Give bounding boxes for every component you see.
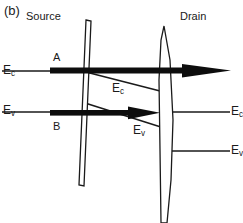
- electron-tunneling-arrow-head: [182, 64, 231, 78]
- drain-conduction-band-subscript: c: [239, 110, 243, 119]
- point-a-label: A: [53, 52, 60, 63]
- drain-conduction-band-label: Ec: [231, 105, 243, 119]
- source-terminal-label: Source: [26, 11, 61, 22]
- source-conduction-band-label: Ec: [3, 64, 15, 78]
- electron-tunneling-arrow-shaft: [50, 68, 182, 74]
- drain-valence-band-subscript: v: [239, 149, 243, 158]
- channel-conduction-band-label: Ec: [112, 82, 124, 96]
- hole-tunneling-arrow-head: [128, 107, 160, 120]
- channel-conduction-band-symbol: E: [112, 81, 120, 95]
- channel-valence-band-symbol: E: [133, 123, 141, 137]
- band-diagram-canvas: [0, 0, 243, 223]
- drain-barrier-shape: [159, 26, 173, 223]
- source-valence-band-label: Ev: [3, 104, 15, 118]
- channel-valence-band-label: Ev: [133, 124, 145, 138]
- point-b-label: B: [53, 121, 60, 132]
- hole-tunneling-arrow-shaft: [50, 110, 128, 116]
- drain-valence-band-symbol: E: [231, 143, 239, 157]
- source-conduction-band-subscript: c: [11, 69, 15, 78]
- source-barrier-shape: [79, 20, 91, 186]
- drain-valence-band-label: Ev: [231, 144, 243, 158]
- source-conduction-band-symbol: E: [3, 63, 11, 77]
- drain-terminal-label: Drain: [180, 11, 206, 22]
- drain-conduction-band-symbol: E: [231, 104, 239, 118]
- source-valence-band-subscript: v: [11, 109, 15, 118]
- source-valence-band-symbol: E: [3, 103, 11, 117]
- panel-label: (b): [4, 4, 20, 17]
- channel-conduction-band-subscript: c: [120, 87, 124, 96]
- channel-valence-band-subscript: v: [141, 129, 145, 138]
- energy-band-diagram-figure: (b) Source Drain A B Ec Ev Ec Ev Ec Ev: [0, 0, 243, 223]
